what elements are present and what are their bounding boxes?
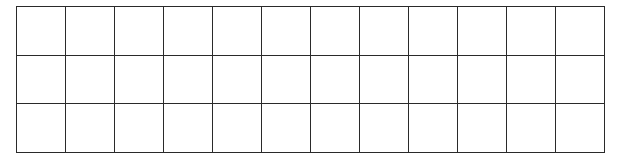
grid-cell-r2-c2 — [66, 56, 115, 105]
grid-cell-r1-c2 — [66, 7, 115, 56]
grid-cell-r2-c8 — [360, 56, 409, 105]
grid-cell-r1-c7 — [311, 7, 360, 56]
grid-cell-r1-c4 — [164, 7, 213, 56]
grid-cell-r2-c10 — [458, 56, 507, 105]
grid-cell-r1-c3 — [115, 7, 164, 56]
grid-cell-r1-c6 — [262, 7, 311, 56]
grid-cell-r3-c6 — [262, 104, 311, 153]
grid-cell-r3-c10 — [458, 104, 507, 153]
grid-cell-r2-c1 — [17, 56, 66, 105]
grid-cell-r3-c1 — [17, 104, 66, 153]
grid-cell-r3-c8 — [360, 104, 409, 153]
grid-cell-r2-c6 — [262, 56, 311, 105]
grid-cell-r1-c11 — [507, 7, 556, 56]
grid-cell-r1-c8 — [360, 7, 409, 56]
grid-cell-r1-c9 — [409, 7, 458, 56]
grid-cell-r1-c5 — [213, 7, 262, 56]
grid-cell-r3-c5 — [213, 104, 262, 153]
grid-cell-r1-c10 — [458, 7, 507, 56]
grid-cell-r2-c4 — [164, 56, 213, 105]
grid-cell-r3-c7 — [311, 104, 360, 153]
grid-cell-r3-c9 — [409, 104, 458, 153]
grid-cell-r2-c12 — [556, 56, 605, 105]
grid-cell-r3-c2 — [66, 104, 115, 153]
grid-cell-r2-c7 — [311, 56, 360, 105]
grid-cell-r2-c9 — [409, 56, 458, 105]
empty-grid-table — [16, 6, 605, 153]
grid-cell-r1-c12 — [556, 7, 605, 56]
grid-cell-r3-c11 — [507, 104, 556, 153]
grid-cell-r3-c3 — [115, 104, 164, 153]
grid-cell-r2-c3 — [115, 56, 164, 105]
grid-cell-r3-c4 — [164, 104, 213, 153]
grid-cell-r2-c11 — [507, 56, 556, 105]
grid-cell-r3-c12 — [556, 104, 605, 153]
grid-cell-r2-c5 — [213, 56, 262, 105]
grid-cell-r1-c1 — [17, 7, 66, 56]
